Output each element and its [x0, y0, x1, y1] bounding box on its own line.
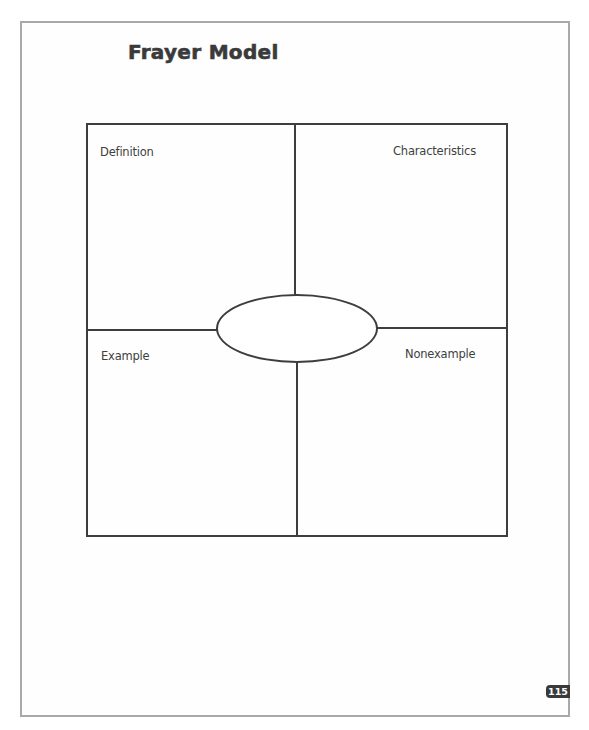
- horizontal-divider-left: [87, 329, 218, 331]
- vertical-divider-top: [294, 124, 296, 296]
- quadrant-label-definition: Definition: [100, 145, 154, 159]
- quadrant-label-example: Example: [101, 349, 150, 363]
- quadrant-label-nonexample: Nonexample: [405, 347, 475, 361]
- page-title: Frayer Model: [128, 40, 279, 64]
- center-term-oval[interactable]: [216, 294, 378, 363]
- vertical-divider-bottom: [296, 360, 298, 536]
- horizontal-divider-right: [376, 327, 507, 329]
- page-number-badge: 115: [546, 685, 570, 698]
- quadrant-label-characteristics: Characteristics: [393, 144, 476, 158]
